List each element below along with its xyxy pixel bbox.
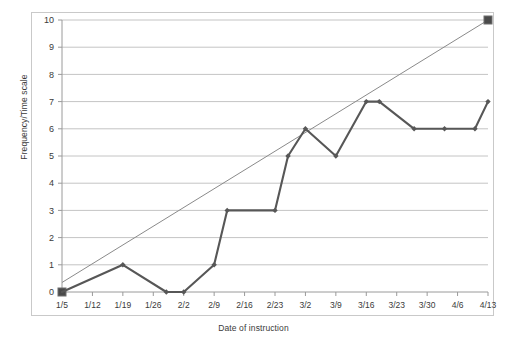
x-tick-label: 1/26 [145, 300, 162, 310]
gridlines [62, 20, 488, 292]
plot-area: 012345678910 1/51/121/191/262/22/92/162/… [0, 0, 507, 345]
chart-figure: Frequency/Time scale Date of instruction… [0, 0, 507, 345]
data-point-marker [442, 126, 447, 131]
y-tick-label: 6 [49, 124, 54, 134]
x-tick-labels: 1/51/121/191/262/22/92/162/233/23/93/163… [56, 300, 496, 310]
y-tick-label: 1 [49, 260, 54, 270]
trend-endpoint-marker [484, 16, 492, 24]
y-tick-labels: 012345678910 [44, 15, 54, 297]
y-tick-label: 8 [49, 70, 54, 80]
x-tick-label: 3/2 [300, 300, 312, 310]
x-tick-label: 2/23 [267, 300, 284, 310]
y-tick-label: 10 [44, 15, 54, 25]
trend-line [62, 20, 488, 282]
x-axis [62, 292, 488, 296]
x-tick-label: 1/12 [84, 300, 101, 310]
x-tick-label: 2/9 [208, 300, 220, 310]
x-tick-label: 1/19 [115, 300, 132, 310]
x-tick-label: 3/30 [419, 300, 436, 310]
y-tick-label: 3 [49, 206, 54, 216]
y-tick-label: 2 [49, 233, 54, 243]
y-tick-label: 4 [49, 178, 54, 188]
y-tick-label: 9 [49, 42, 54, 52]
data-point-marker [272, 208, 277, 213]
x-tick-label: 3/16 [358, 300, 375, 310]
series-polyline [62, 102, 488, 292]
x-tick-label: 3/9 [330, 300, 342, 310]
y-tick-label: 7 [49, 97, 54, 107]
x-tick-label: 4/6 [452, 300, 464, 310]
data-line-series [62, 99, 491, 295]
data-point-marker [224, 208, 229, 213]
y-axis [58, 20, 62, 292]
x-tick-label: 1/5 [56, 300, 68, 310]
y-tick-label: 5 [49, 151, 54, 161]
y-tick-label: 0 [49, 287, 54, 297]
x-tick-label: 3/23 [388, 300, 405, 310]
x-tick-label: 4/13 [480, 300, 497, 310]
x-tick-label: 2/16 [236, 300, 253, 310]
x-tick-label: 2/2 [178, 300, 190, 310]
